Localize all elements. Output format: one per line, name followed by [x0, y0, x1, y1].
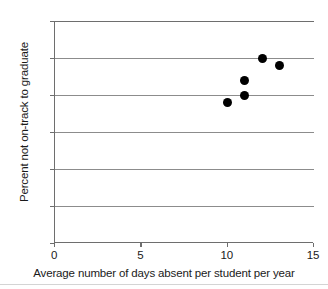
- x-tick-label: 10: [207, 249, 247, 261]
- data-point: [240, 91, 249, 100]
- gridline: [55, 132, 314, 133]
- x-tick-mark: [140, 243, 141, 247]
- footer-divider: [0, 284, 328, 285]
- y-tick-mark: [50, 58, 54, 59]
- x-tick-mark: [54, 243, 55, 247]
- data-point: [240, 76, 249, 85]
- x-tick-mark: [227, 243, 228, 247]
- y-tick-mark: [50, 132, 54, 133]
- scatter-chart-figure: Percent not on-track to graduate 0%5%10%…: [0, 0, 328, 289]
- plot-area: [54, 21, 313, 243]
- data-point: [258, 54, 267, 63]
- x-tick-label: 0: [34, 249, 74, 261]
- data-point: [275, 61, 284, 70]
- gridline: [55, 58, 314, 59]
- gridline: [55, 169, 314, 170]
- x-tick-mark: [313, 243, 314, 247]
- y-tick-mark: [50, 95, 54, 96]
- x-tick-label: 5: [120, 249, 160, 261]
- x-axis-title: Average number of days absent per studen…: [0, 267, 328, 279]
- y-tick-mark: [50, 206, 54, 207]
- y-tick-mark: [50, 169, 54, 170]
- gridline: [55, 206, 314, 207]
- y-axis-title: Percent not on-track to graduate: [18, 10, 30, 234]
- data-point: [223, 98, 232, 107]
- gridline: [55, 95, 314, 96]
- gridline: [55, 21, 314, 22]
- y-tick-mark: [50, 21, 54, 22]
- x-tick-label: 15: [293, 249, 328, 261]
- x-axis: Average number of days absent per studen…: [0, 243, 328, 289]
